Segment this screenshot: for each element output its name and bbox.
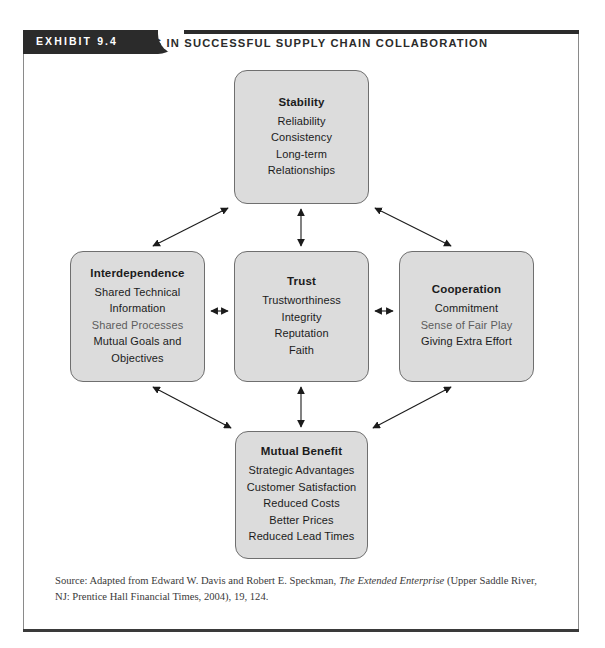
node-interdependence[interactable]: Interdependence Shared Technical Informa… [70, 251, 205, 382]
node-item: Long-term [276, 146, 327, 163]
node-item: Reduced Costs [263, 495, 340, 512]
node-item: Integrity [281, 309, 321, 326]
node-item: Faith [289, 342, 314, 359]
node-item: Commitment [435, 300, 498, 317]
node-item: Sense of Fair Play [421, 317, 513, 334]
node-title: Interdependence [90, 267, 184, 279]
node-item: Shared Technical [95, 284, 181, 301]
source-title: The Extended Enterprise [339, 575, 444, 586]
node-title: Mutual Benefit [261, 445, 342, 457]
node-item: Information [109, 300, 165, 317]
node-item: Reduced Lead Times [249, 528, 355, 545]
exhibit-tab-label: EXHIBIT 9.4 [36, 35, 118, 47]
node-title: Trust [287, 275, 316, 287]
connector-cooperation-stability [375, 208, 451, 246]
source-note: Source: Adapted from Edward W. Davis and… [55, 573, 547, 604]
node-item: Relationships [268, 162, 335, 179]
connector-interdependence-stability [153, 208, 228, 246]
node-item: Trustworthiness [262, 292, 341, 309]
connector-interdependence-mutualbenefit [153, 387, 231, 428]
node-item: Consistency [271, 129, 332, 146]
node-item: Customer Satisfaction [247, 479, 357, 496]
node-trust[interactable]: Trust Trustworthiness Integrity Reputati… [234, 251, 369, 382]
node-item: Strategic Advantages [249, 462, 355, 479]
source-prefix: Source: Adapted from Edward W. Davis and… [55, 575, 339, 586]
node-item: Better Prices [269, 512, 333, 529]
node-item: Mutual Goals and [94, 333, 182, 350]
node-item: Objectives [111, 350, 163, 367]
page-title: FACTORS IN SUCCESSFUL SUPPLY CHAIN COLLA… [101, 37, 531, 49]
node-item: Giving Extra Effort [421, 333, 512, 350]
node-title: Cooperation [432, 283, 501, 295]
node-item: Reputation [274, 325, 328, 342]
connector-cooperation-mutualbenefit [373, 387, 451, 428]
node-stability[interactable]: Stability Reliability Consistency Long-t… [234, 70, 369, 204]
node-mutual-benefit[interactable]: Mutual Benefit Strategic Advantages Cust… [235, 431, 368, 559]
exhibit-figure: EXHIBIT 9.4 FACTORS IN SUCCESSFUL SUPPLY… [0, 0, 605, 648]
node-item: Shared Processes [92, 317, 183, 334]
frame-bottom-rule [23, 629, 579, 632]
node-item: Reliability [277, 113, 325, 130]
node-cooperation[interactable]: Cooperation Commitment Sense of Fair Pla… [399, 251, 534, 382]
diagram-canvas: Stability Reliability Consistency Long-t… [23, 56, 579, 561]
node-title: Stability [278, 96, 324, 108]
